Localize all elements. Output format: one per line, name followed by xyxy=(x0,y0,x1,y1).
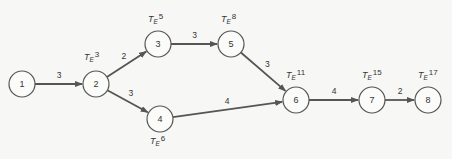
edge-weight-label: 3 xyxy=(192,30,197,40)
edge-weight-label: 3 xyxy=(57,70,62,80)
node-1: 1 xyxy=(9,71,35,97)
node-label: 2 xyxy=(93,79,98,89)
earliest-time-label-node-8: TE17 xyxy=(418,68,438,81)
earliest-time-label-node-7: TE15 xyxy=(362,68,382,81)
te-value: 15 xyxy=(373,68,382,77)
node-8: 8 xyxy=(415,87,441,113)
edge-weight-label: 3 xyxy=(265,59,270,69)
edge-4-6: 4 xyxy=(173,96,282,118)
earliest-time-label-node-3: TE5 xyxy=(148,12,163,25)
te-subscript: E xyxy=(292,74,296,81)
node-4: 4 xyxy=(147,106,173,132)
node-label: 1 xyxy=(19,79,24,89)
node-7: 7 xyxy=(359,87,385,113)
te-value: 8 xyxy=(232,12,236,21)
edge-weight-label: 3 xyxy=(129,88,134,98)
arrow-line xyxy=(241,52,286,90)
te-subscript: E xyxy=(156,140,160,147)
node-label: 8 xyxy=(425,95,430,105)
node-label: 4 xyxy=(157,114,162,124)
node-5: 5 xyxy=(218,31,244,57)
te-value: 17 xyxy=(429,68,438,77)
edge-weight-label: 2 xyxy=(121,51,126,61)
node-label: 5 xyxy=(228,39,233,49)
earliest-time-label-node-6: TE11 xyxy=(286,68,305,81)
node-6: 6 xyxy=(283,87,309,113)
te-value: 11 xyxy=(297,68,305,77)
edge-6-7: 4 xyxy=(309,86,358,100)
edge-5-6: 3 xyxy=(241,52,286,90)
te-subscript: E xyxy=(424,74,428,81)
node-label: 6 xyxy=(293,95,298,105)
earliest-time-label-node-2: TE3 xyxy=(84,50,99,63)
node-2: 2 xyxy=(83,71,109,97)
edge-3-5: 3 xyxy=(171,30,217,44)
node-label: 7 xyxy=(369,95,374,105)
earliest-time-label-node-5: TE8 xyxy=(221,12,236,25)
arrow-line xyxy=(107,52,146,77)
edge-weight-label: 4 xyxy=(332,86,337,96)
edge-1-2: 3 xyxy=(35,70,82,84)
edge-weight-label: 4 xyxy=(225,96,230,106)
earliest-time-label-node-4: TE6 xyxy=(150,134,165,147)
edge-2-3: 2 xyxy=(107,51,146,77)
node-label: 3 xyxy=(155,39,160,49)
edge-2-4: 3 xyxy=(107,88,147,112)
te-subscript: E xyxy=(227,18,231,25)
edge-weight-label: 2 xyxy=(398,86,403,96)
node-3: 3 xyxy=(145,31,171,57)
te-value: 6 xyxy=(161,134,165,143)
te-subscript: E xyxy=(154,18,158,25)
te-subscript: E xyxy=(90,56,94,63)
te-value: 5 xyxy=(159,12,163,21)
edge-7-8: 2 xyxy=(385,86,414,100)
te-subscript: E xyxy=(368,74,372,81)
te-value: 3 xyxy=(95,50,99,59)
